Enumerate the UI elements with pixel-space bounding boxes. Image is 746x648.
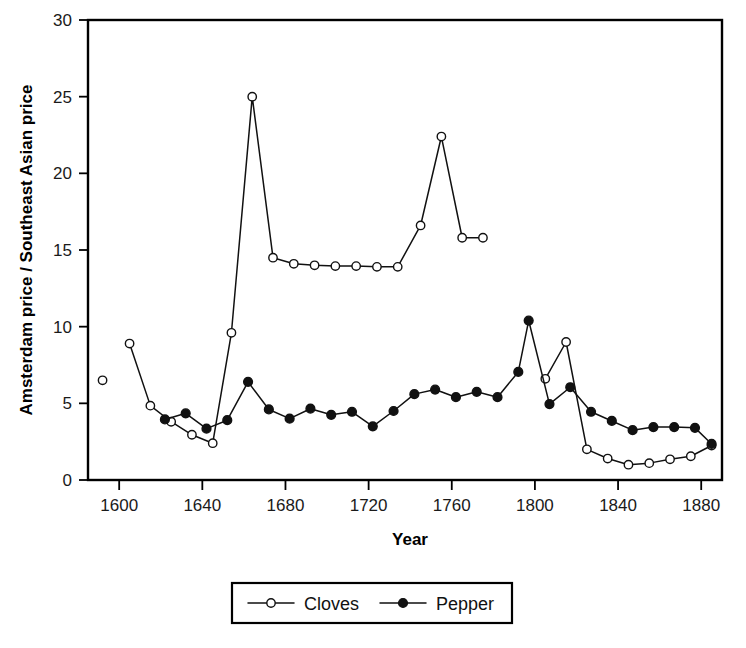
x-axis-title: Year: [392, 530, 428, 549]
y-tick-label: 10: [53, 318, 72, 337]
data-point-pepper: [202, 424, 211, 433]
data-point-cloves: [479, 234, 487, 242]
x-tick-label: 1880: [682, 496, 720, 515]
data-point-pepper: [691, 423, 700, 432]
data-point-cloves: [146, 401, 154, 409]
data-point-pepper: [181, 409, 190, 418]
data-point-pepper: [628, 426, 637, 435]
data-point-pepper: [161, 415, 170, 424]
x-tick-label: 1600: [100, 496, 138, 515]
y-tick-label: 5: [63, 394, 72, 413]
legend-marker-cloves: [267, 599, 275, 607]
y-tick-label: 25: [53, 88, 72, 107]
data-point-pepper: [389, 407, 398, 416]
data-point-pepper: [306, 404, 315, 413]
data-point-pepper: [670, 423, 679, 432]
data-point-pepper: [707, 440, 716, 449]
data-point-cloves: [624, 460, 632, 468]
data-point-cloves: [310, 261, 318, 269]
data-point-pepper: [587, 407, 596, 416]
data-point-pepper: [348, 407, 357, 416]
data-point-pepper: [327, 410, 336, 419]
data-point-cloves: [437, 132, 445, 140]
data-point-cloves: [666, 455, 674, 463]
data-point-cloves: [603, 454, 611, 462]
data-point-cloves: [373, 263, 381, 271]
data-point-cloves: [645, 459, 653, 467]
data-point-pepper: [566, 383, 575, 392]
data-point-pepper: [472, 387, 481, 396]
y-tick-label: 0: [63, 471, 72, 490]
data-point-cloves: [562, 338, 570, 346]
data-point-cloves: [352, 262, 360, 270]
x-tick-label: 1680: [267, 496, 305, 515]
data-point-pepper: [545, 400, 554, 409]
price-ratio-line-chart: Amsterdam price / Southeast Asian price …: [0, 0, 746, 648]
legend-label-cloves: Cloves: [304, 594, 359, 614]
data-point-cloves: [98, 376, 106, 384]
x-tick-label: 1640: [183, 496, 221, 515]
data-point-cloves: [290, 260, 298, 268]
data-point-pepper: [493, 393, 502, 402]
data-point-pepper: [223, 416, 232, 425]
data-point-cloves: [227, 329, 235, 337]
data-point-pepper: [410, 390, 419, 399]
data-point-pepper: [607, 417, 616, 426]
data-point-pepper: [431, 385, 440, 394]
data-point-cloves: [248, 92, 256, 100]
data-point-cloves: [269, 253, 277, 261]
x-tick-label: 1800: [516, 496, 554, 515]
x-tick-label: 1840: [599, 496, 637, 515]
data-point-pepper: [524, 316, 533, 325]
x-tick-label: 1760: [433, 496, 471, 515]
data-point-cloves: [331, 262, 339, 270]
x-tick-label: 1720: [350, 496, 388, 515]
data-point-cloves: [416, 221, 424, 229]
data-point-cloves: [583, 445, 591, 453]
data-point-cloves: [209, 439, 217, 447]
y-tick-label: 15: [53, 241, 72, 260]
chart-legend: ClovesPepper: [232, 583, 512, 623]
legend-marker-pepper: [399, 599, 408, 608]
data-point-pepper: [264, 405, 273, 414]
data-point-cloves: [394, 263, 402, 271]
legend-label-pepper: Pepper: [436, 594, 494, 614]
chart-figure: Amsterdam price / Southeast Asian price …: [0, 0, 746, 648]
y-tick-label: 20: [53, 164, 72, 183]
data-point-cloves: [188, 431, 196, 439]
y-axis-title: Amsterdam price / Southeast Asian price: [17, 85, 36, 416]
data-point-pepper: [244, 377, 253, 386]
data-point-pepper: [514, 368, 523, 377]
chart-background: [0, 0, 746, 648]
data-point-cloves: [687, 452, 695, 460]
data-point-pepper: [452, 393, 461, 402]
data-point-pepper: [649, 423, 658, 432]
data-point-cloves: [458, 234, 466, 242]
data-point-pepper: [368, 422, 377, 431]
y-tick-label: 30: [53, 11, 72, 30]
data-point-pepper: [285, 414, 294, 423]
data-point-cloves: [125, 339, 133, 347]
